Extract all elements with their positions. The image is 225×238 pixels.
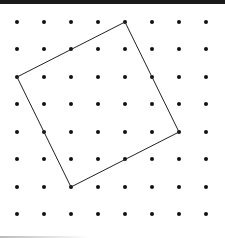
grid-dot [123,102,127,106]
grid-dot [204,157,208,161]
grid-dot [177,47,181,51]
grid-dot [15,185,19,189]
grid-dot [15,130,19,134]
grid-dot [42,102,46,106]
grid-dot [96,130,100,134]
grid-dot [177,102,181,106]
grid-dot [150,102,154,106]
grid-dot [150,212,154,216]
grid-dot [204,130,208,134]
grid-dot [69,75,73,79]
grid-dot [69,157,73,161]
grid-dot [42,157,46,161]
bottom-shadow [0,236,90,238]
grid-dot [204,102,208,106]
grid-dot [69,20,73,24]
grid-dot [177,20,181,24]
grid-dot [42,212,46,216]
grid-dot [96,47,100,51]
grid-dot [42,47,46,51]
grid-dot [204,185,208,189]
grid-dot [204,20,208,24]
grid-dot [15,157,19,161]
grid-dot [96,75,100,79]
grid-dot [96,157,100,161]
grid-dot [150,130,154,134]
grid-dot [15,20,19,24]
grid-dot [177,157,181,161]
grid-dot [123,47,127,51]
grid-dot [69,212,73,216]
grid-dot [42,20,46,24]
grid-dot [204,47,208,51]
grid-dot [42,75,46,79]
grid-dot [177,75,181,79]
grid-dot [15,212,19,216]
grid-dot [42,185,46,189]
grid-dot [204,75,208,79]
grid-dot [150,157,154,161]
dot-grid-board [0,0,225,238]
grid-dots [15,20,208,216]
grid-dot [123,212,127,216]
grid-dot [96,185,100,189]
grid-dot [96,102,100,106]
grid-dot [150,47,154,51]
grid-dot [69,102,73,106]
grid-dot [15,102,19,106]
grid-dot [150,20,154,24]
grid-dot [96,20,100,24]
grid-dot [96,212,100,216]
grid-dot [177,212,181,216]
grid-dot [177,185,181,189]
grid-dot [150,185,154,189]
grid-dot [15,47,19,51]
grid-dot [204,212,208,216]
grid-dot [69,130,73,134]
grid-dot [123,185,127,189]
grid-dot [123,75,127,79]
grid-dot [123,130,127,134]
